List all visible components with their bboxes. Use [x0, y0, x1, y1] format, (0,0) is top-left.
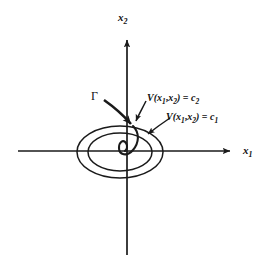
x1-axis-label: x1 [243, 145, 253, 159]
c1-equals: = [199, 111, 210, 122]
x2-axis-label-subscript: 2 [124, 17, 128, 26]
c2-equals: = [180, 92, 191, 103]
x2-axis-label: x2 [118, 12, 128, 26]
inner-level-set-label: V(x1,x2) = c2 [147, 93, 199, 106]
x1-axis-label-subscript: 1 [249, 150, 253, 159]
trajectory-gamma-label: Γ [91, 90, 98, 102]
c2-const-subscript: 2 [196, 97, 200, 106]
outer-level-set-label: V(x1,x2) = c1 [166, 112, 218, 125]
trajectory-gamma-path [119, 126, 138, 154]
figure-canvas [0, 0, 267, 267]
c1-func: V( [166, 111, 176, 122]
c2-func: V( [147, 92, 157, 103]
c2-annotation-arrow [136, 101, 146, 121]
c1-const-subscript: 1 [215, 116, 219, 125]
lyapunov-phase-plane-figure: x2 x1 V(x1,x2) = c2 V(x1,x2) = c1 Γ [0, 0, 267, 267]
